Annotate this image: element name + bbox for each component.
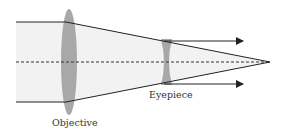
telescope-diagram: Objective Eyepiece — [0, 0, 284, 137]
eyepiece-label: Eyepiece — [149, 89, 193, 100]
ray-diagram-canvas — [0, 0, 284, 137]
objective-label: Objective — [52, 117, 98, 128]
